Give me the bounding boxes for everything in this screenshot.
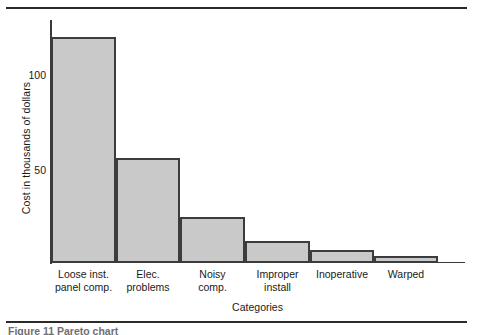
x-label-line: comp. [180, 281, 245, 294]
figure-container: Cost in thousands of dollars 100 50 Loos… [0, 0, 479, 335]
x-label-improper-install: Improper install [245, 268, 310, 294]
x-label-line: Noisy [180, 268, 245, 281]
x-label-loose-inst-panel-comp: Loose inst. panel comp. [51, 268, 116, 294]
chart-plot-area: Cost in thousands of dollars 100 50 Loos… [0, 0, 479, 335]
x-label-line: Elec. [116, 268, 180, 281]
figure-caption: Figure 11 Pareto chart [8, 325, 468, 335]
bar-elec-problems [116, 158, 180, 263]
x-label-line: Improper [245, 268, 310, 281]
x-label-elec-problems: Elec. problems [116, 268, 180, 294]
bar-loose-inst-panel-comp [51, 37, 116, 263]
x-label-line: problems [116, 281, 180, 294]
x-label-warped: Warped [374, 268, 438, 281]
x-label-line: Inoperative [306, 268, 378, 281]
bar-noisy-comp [180, 217, 245, 263]
figure-bottom-rule [6, 321, 467, 323]
x-label-line: install [245, 281, 310, 294]
bar-inoperative [310, 250, 374, 263]
bar-improper-install [245, 241, 310, 263]
x-label-line: panel comp. [51, 281, 116, 294]
bar-warped [374, 256, 438, 263]
x-label-line: Loose inst. [51, 268, 116, 281]
x-label-inoperative: Inoperative [306, 268, 378, 281]
x-label-noisy-comp: Noisy comp. [180, 268, 245, 294]
x-label-line: Warped [374, 268, 438, 281]
x-axis-title: Categories [50, 301, 465, 313]
